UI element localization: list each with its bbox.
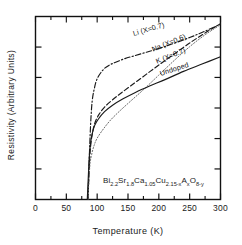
x-axis-title: Temperature (K): [35, 226, 221, 236]
x-axis-top-ticks: [36, 17, 221, 23]
y-axis-left-ticks: [36, 47, 42, 169]
x-tick-label-250: 250: [178, 203, 202, 213]
chemical-formula-annotation: Bi2.2Sr1.8Ca1.05Cu2.15-xAxO8-y: [103, 176, 204, 187]
formula-part: 2.15-x: [166, 181, 182, 187]
x-tick-label-200: 200: [147, 203, 171, 213]
x-tick-label-0: 0: [24, 203, 48, 213]
formula-part: Cu: [155, 176, 165, 185]
resistivity-vs-temperature-figure: Resistivity (Arbitrary Units) 0501001502…: [0, 0, 242, 245]
formula-part: 1.8: [126, 181, 134, 187]
x-tick-label-50: 50: [54, 203, 78, 213]
x-axis-major-ticks: [36, 194, 221, 200]
x-tick-label-150: 150: [116, 203, 140, 213]
formula-part: 8-y: [196, 181, 204, 187]
y-axis-right-ticks: [215, 47, 221, 169]
plot-frame: [36, 17, 221, 200]
formula-part: 2.2: [110, 181, 118, 187]
x-tick-label-300: 300: [209, 203, 233, 213]
x-tick-label-100: 100: [85, 203, 109, 213]
formula-part: 1.05: [145, 181, 156, 187]
formula-part: Ca: [134, 176, 144, 185]
